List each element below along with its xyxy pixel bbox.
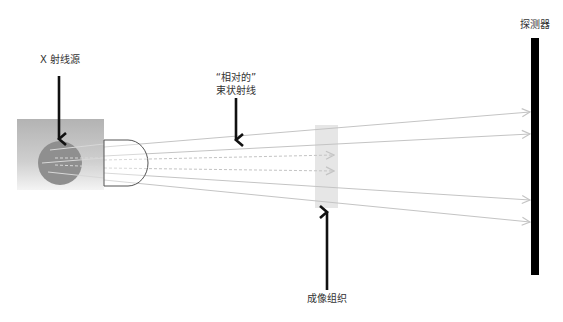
beam-label-line2: 束状射线 <box>196 84 276 97</box>
collimator <box>104 140 148 186</box>
beam-label-line1: “相对的” <box>196 71 276 84</box>
source-label: X 射线源 <box>30 53 90 66</box>
tissue-label: 成像组织 <box>292 292 362 305</box>
xray-diagram <box>0 0 563 322</box>
detector-label: 探测器 <box>505 18 563 31</box>
imaged-tissue <box>315 125 338 208</box>
detector-plate <box>531 38 539 275</box>
